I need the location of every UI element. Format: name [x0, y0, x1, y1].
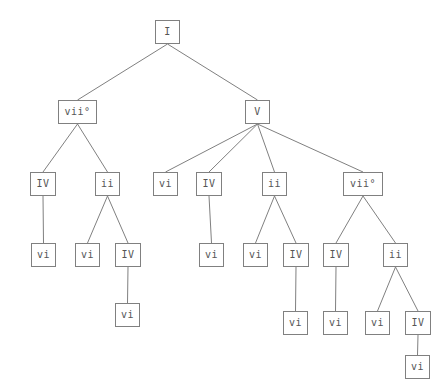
tree-node: vi [405, 355, 430, 379]
tree-node: vi [31, 243, 56, 267]
tree-edge [168, 44, 258, 100]
tree-node-label: vi [159, 179, 172, 189]
tree-node: IV [30, 172, 56, 196]
tree-edge [258, 124, 364, 172]
tree-node-label: vi [411, 362, 424, 372]
tree-node-label: vi [289, 318, 302, 328]
tree-node-label: vi [371, 318, 384, 328]
tree-edge [418, 335, 419, 355]
tree-node-label: IV [36, 179, 49, 189]
tree-node: IV [323, 243, 349, 267]
tree-node-label: vi [37, 250, 50, 260]
tree-edge [296, 267, 297, 311]
tree-edge [336, 267, 337, 311]
tree-node-label: I [164, 27, 171, 37]
tree-node: vi [153, 172, 178, 196]
tree-edge [209, 124, 258, 172]
tree-edge [166, 124, 258, 172]
tree-node: ii [262, 172, 287, 196]
tree-node-label: IV [411, 318, 424, 328]
tree-node-label: ii [101, 179, 114, 189]
tree-node: vi [283, 311, 308, 335]
tree-node-label: vi [121, 310, 134, 320]
tree-edge [128, 267, 129, 303]
tree-node-label: V [254, 107, 261, 117]
tree-node-label: vi [329, 318, 342, 328]
tree-edge [78, 44, 168, 100]
tree-node-label: vi [249, 250, 262, 260]
tree-edge [275, 196, 297, 243]
tree-node-label: IV [289, 250, 302, 260]
tree-node: IV [405, 311, 431, 335]
tree-edge [396, 267, 419, 311]
tree-node: ii [95, 172, 120, 196]
tree-node-label: vii° [350, 179, 376, 189]
tree-node-label: IV [121, 250, 134, 260]
tree-edge [43, 196, 44, 243]
tree-node: vi [75, 243, 100, 267]
tree-node: IV [115, 243, 141, 267]
tree-edge [43, 124, 78, 172]
tree-node: vi [243, 243, 268, 267]
tree-node: IV [196, 172, 222, 196]
tree-node-label: vi [81, 250, 94, 260]
tree-node-label: ii [389, 250, 402, 260]
tree-edge [363, 196, 396, 243]
tree-edge [256, 196, 275, 243]
tree-node: ii [383, 243, 408, 267]
tree-node: vi [199, 243, 224, 267]
harmonic-tree-diagram: Ivii°VIViiviIViivii°viviIVviviIVIViivivi… [0, 0, 445, 390]
tree-node: vii° [58, 100, 97, 124]
tree-edge [108, 196, 129, 243]
tree-node-label: IV [202, 179, 215, 189]
tree-node-label: IV [329, 250, 342, 260]
tree-edge [209, 196, 212, 243]
tree-node-label: vi [205, 250, 218, 260]
tree-node: vi [115, 303, 140, 327]
tree-node-label: vii° [64, 107, 90, 117]
tree-node: vi [365, 311, 390, 335]
tree-node: vii° [343, 172, 383, 196]
tree-edge [78, 124, 108, 172]
tree-edge [378, 267, 396, 311]
tree-node: vi [323, 311, 348, 335]
tree-edge [336, 196, 363, 243]
tree-node: IV [283, 243, 309, 267]
tree-node: V [245, 100, 270, 124]
tree-node: I [155, 20, 180, 44]
tree-edge [88, 196, 108, 243]
tree-node-label: ii [268, 179, 281, 189]
tree-edge [258, 124, 275, 172]
